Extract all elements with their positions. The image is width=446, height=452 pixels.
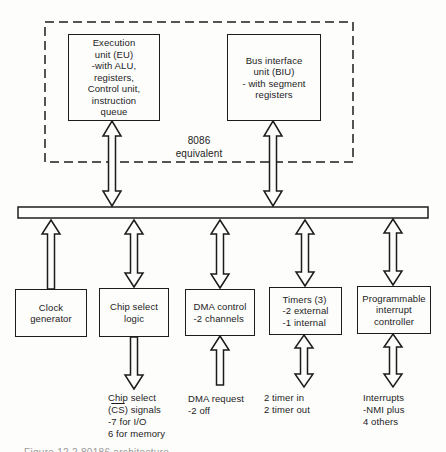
timers-bus-arrow bbox=[296, 220, 314, 286]
clock-bus-arrow bbox=[42, 220, 60, 289]
chip-select-logic-label: Chip select logic bbox=[110, 301, 158, 324]
chip-select-output-arrow bbox=[125, 337, 143, 389]
8086-equivalent-label: 8086 equivalent bbox=[166, 134, 232, 160]
clock-generator-label: Clock generator bbox=[30, 302, 72, 325]
bus-interface-unit-label: Bus interface unit (BIU) - with segment … bbox=[242, 55, 305, 101]
programmable-interrupt-controller-label: Programmable interrupt controller bbox=[362, 293, 426, 328]
chip-select-logic-box: Chip select logic bbox=[99, 288, 169, 337]
diagram-linework bbox=[0, 0, 446, 452]
figure-caption: Figure 12.2 80186 architecture bbox=[24, 447, 169, 452]
interrupts-arrow bbox=[384, 334, 402, 387]
eu-bus-arrow bbox=[103, 121, 121, 206]
clock-generator-box: Clock generator bbox=[15, 289, 87, 337]
dma-control-label: DMA control -2 channels bbox=[194, 301, 247, 324]
timers-label: Timers (3) -2 external -1 internal bbox=[283, 294, 329, 329]
bus-interface-unit-box: Bus interface unit (BIU) - with segment … bbox=[227, 34, 321, 121]
timers-box: Timers (3) -2 external -1 internal bbox=[269, 287, 342, 335]
execution-unit-label: Execution unit (EU) -with ALU, registers… bbox=[88, 37, 141, 118]
chip-select-bus-arrow bbox=[125, 220, 143, 287]
programmable-interrupt-controller-box: Programmable interrupt controller bbox=[357, 286, 431, 334]
execution-unit-box: Execution unit (EU) -with ALU, registers… bbox=[68, 34, 160, 121]
dma-request-label: DMA request -2 off bbox=[188, 393, 258, 417]
timer-io-label: 2 timer in 2 timer out bbox=[264, 392, 334, 416]
system-bus-bar bbox=[18, 207, 428, 218]
interrupts-label: Interrupts -NMI plus 4 others bbox=[363, 392, 433, 428]
chip-select-signals-label: Chip select (CS) signals -7 for I/O 6 fo… bbox=[108, 392, 190, 440]
cs-overline-text: CS bbox=[111, 404, 124, 415]
pic-bus-arrow bbox=[384, 219, 402, 285]
timer-io-arrow bbox=[295, 335, 313, 387]
dma-bus-arrow bbox=[211, 220, 229, 288]
dma-control-box: DMA control -2 channels bbox=[185, 289, 255, 336]
biu-bus-arrow bbox=[264, 121, 282, 206]
dma-request-input-arrow bbox=[211, 336, 229, 385]
block-diagram-canvas: Execution unit (EU) -with ALU, registers… bbox=[0, 0, 446, 452]
